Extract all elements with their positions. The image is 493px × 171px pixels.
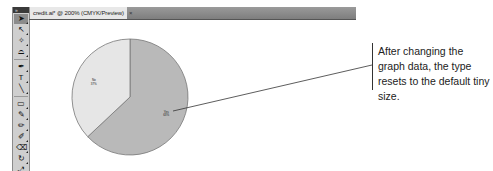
callout-text: After changing the graph data, the type … xyxy=(378,44,490,104)
magic-wand-tool[interactable]: ✧ xyxy=(14,36,28,46)
document-tab-title: credit.ai* @ 200% (CMYK/Preview) xyxy=(33,10,124,16)
pencil-icon: ✏ xyxy=(18,121,25,131)
selection-tool[interactable]: ➤ xyxy=(14,14,28,24)
scale-tool[interactable]: ⤢ xyxy=(14,165,28,171)
lasso-tool[interactable]: ⌓ xyxy=(14,47,28,57)
document-tab-bar: credit.ai* @ 200% (CMYK/Preview) × xyxy=(29,7,356,20)
pen-tool[interactable]: ✒ xyxy=(14,62,28,72)
blob-brush-tool[interactable]: ✐ xyxy=(14,132,28,142)
collapse-icon[interactable]: » xyxy=(15,8,18,13)
tools-panel-header[interactable]: » xyxy=(13,7,29,13)
blob-brush-icon: ✐ xyxy=(18,132,25,142)
artboard-canvas[interactable]: Yes63%No37% xyxy=(29,20,356,171)
slice-value-label: 37% xyxy=(91,82,97,86)
type-icon: T xyxy=(19,73,24,83)
line-segment-tool[interactable]: ╲ xyxy=(14,84,28,94)
pie-chart[interactable]: Yes63%No37% xyxy=(29,20,356,171)
close-tab-icon[interactable]: × xyxy=(129,10,133,16)
tool-separator xyxy=(14,96,28,97)
pencil-tool[interactable]: ✏ xyxy=(14,121,28,131)
lasso-icon: ⌓ xyxy=(18,47,24,57)
rectangle-tool[interactable]: ▭ xyxy=(14,99,28,109)
eraser-tool[interactable]: ⌫ xyxy=(14,143,28,153)
tools-panel: » ➤↖✧⌓✒T╲▭✎✏✐⌫↻⤢ xyxy=(12,7,30,171)
pen-icon: ✒ xyxy=(18,62,25,72)
direct-selection-tool[interactable]: ↖ xyxy=(14,25,28,35)
type-tool[interactable]: T xyxy=(14,73,28,83)
tool-separator xyxy=(14,59,28,60)
rectangle-icon: ▭ xyxy=(17,99,25,109)
selection-icon: ➤ xyxy=(18,14,25,24)
eraser-icon: ⌫ xyxy=(16,143,27,153)
slice-value-label: 63% xyxy=(163,113,169,117)
magic-wand-icon: ✧ xyxy=(18,36,25,46)
rotate-icon: ↻ xyxy=(18,154,25,164)
paintbrush-icon: ✎ xyxy=(18,110,25,120)
direct-selection-icon: ↖ xyxy=(18,25,25,35)
rotate-tool[interactable]: ↻ xyxy=(14,154,28,164)
scale-icon: ⤢ xyxy=(18,165,24,171)
document-tab[interactable]: credit.ai* @ 200% (CMYK/Preview) × xyxy=(30,7,127,19)
paintbrush-tool[interactable]: ✎ xyxy=(14,110,28,120)
callout-bar xyxy=(372,43,373,90)
line-segment-icon: ╲ xyxy=(19,84,24,94)
